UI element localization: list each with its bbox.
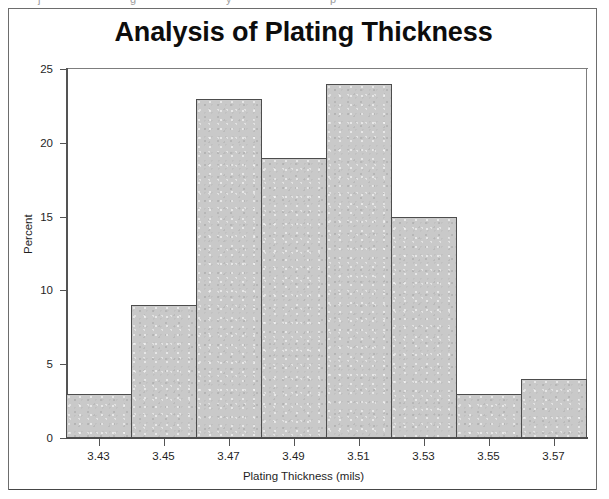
y-axis-tick-label: 5 — [9, 358, 53, 370]
x-axis-tick-label: 3.55 — [459, 450, 519, 462]
x-axis-tick-label: 3.57 — [524, 450, 584, 462]
histogram-bar — [521, 379, 587, 438]
x-axis-tick-label: 3.49 — [264, 450, 324, 462]
y-axis-tick-label: 0 — [9, 432, 53, 444]
x-axis-tick-label: 3.53 — [394, 450, 454, 462]
x-axis-tick — [229, 439, 230, 446]
histogram-bar — [326, 84, 392, 438]
y-axis-tick-label: 20 — [9, 137, 53, 149]
y-axis-tick-label: 10 — [9, 284, 53, 296]
x-axis-tick-label: 3.43 — [69, 450, 129, 462]
scan-artifact-glyph: g — [130, 0, 136, 5]
x-axis-tick — [99, 439, 100, 446]
histogram-bar — [391, 217, 457, 438]
plot-area — [66, 69, 586, 438]
scan-artifact-glyph: j — [38, 0, 40, 5]
x-axis-tick-label: 3.51 — [329, 450, 389, 462]
x-axis-tick-label: 3.47 — [199, 450, 259, 462]
graph-frame: Analysis of Plating Thickness Percent 05… — [8, 8, 597, 490]
x-axis-title: Plating Thickness (mils) — [9, 470, 598, 482]
histogram-bar — [261, 158, 327, 438]
x-axis-tick — [424, 439, 425, 446]
histogram-bar — [196, 99, 262, 438]
x-axis-tick — [489, 439, 490, 446]
y-axis-tick-label: 25 — [9, 63, 53, 75]
x-axis-tick — [294, 439, 295, 446]
scan-artifact-glyph: y — [226, 0, 232, 5]
scan-artifact-glyph: p — [330, 0, 336, 5]
chart-title: Analysis of Plating Thickness — [9, 17, 598, 48]
y-axis-tick-label: 15 — [9, 211, 53, 223]
x-axis-tick — [164, 439, 165, 446]
histogram-bar — [131, 305, 197, 438]
x-axis-tick — [554, 439, 555, 446]
x-axis-tick-label: 3.45 — [134, 450, 194, 462]
scan-artifact-strip: j g y p — [0, 0, 609, 8]
histogram-bar — [456, 394, 522, 438]
x-axis-tick — [359, 439, 360, 446]
histogram-bar — [66, 394, 132, 438]
